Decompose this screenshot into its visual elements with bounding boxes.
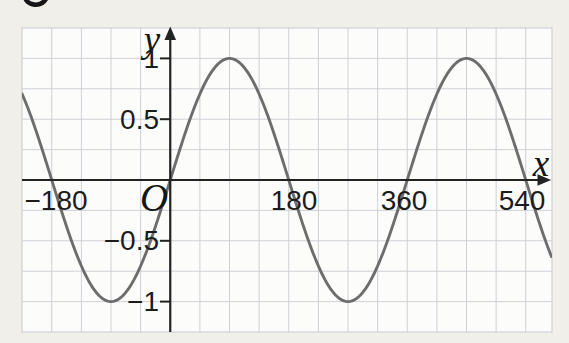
sine-graph-canvas bbox=[0, 0, 569, 343]
x-tick-540: 540 bbox=[499, 187, 546, 215]
y-tick-0-5: 0.5 bbox=[120, 106, 159, 134]
cropped-print-glyph bbox=[25, 0, 47, 5]
origin-label: O bbox=[140, 178, 168, 217]
y-tick-1: 1 bbox=[143, 45, 159, 73]
x-tick-180: 180 bbox=[271, 187, 318, 215]
x-tick-minus-180: −180 bbox=[24, 187, 87, 215]
figure-page: y x O 1 0.5 −0.5 −1 −180 180 360 540 bbox=[0, 0, 569, 343]
x-tick-360: 360 bbox=[381, 187, 428, 215]
x-axis-label: x bbox=[533, 145, 549, 182]
y-tick-minus-1: −1 bbox=[127, 288, 159, 316]
y-tick-minus-0-5: −0.5 bbox=[104, 227, 159, 255]
